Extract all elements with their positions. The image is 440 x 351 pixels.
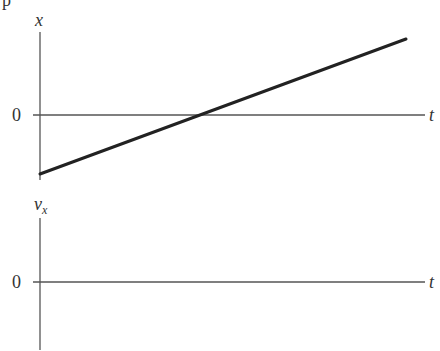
velocity-axis-label: vx [34, 194, 48, 217]
zero-label: 0 [12, 105, 21, 125]
zero-label: 0 [12, 272, 21, 292]
kinematics-diagram: p x 0 t vx 0 t [0, 0, 440, 351]
cropped-glyph: p [2, 0, 11, 10]
velocity-graph: vx 0 t [12, 194, 435, 350]
time-axis-label: t [429, 105, 435, 125]
position-graph: x 0 t [12, 10, 435, 180]
position-axis-label: x [34, 10, 43, 30]
position-line [40, 39, 406, 174]
time-axis-label: t [429, 272, 435, 292]
